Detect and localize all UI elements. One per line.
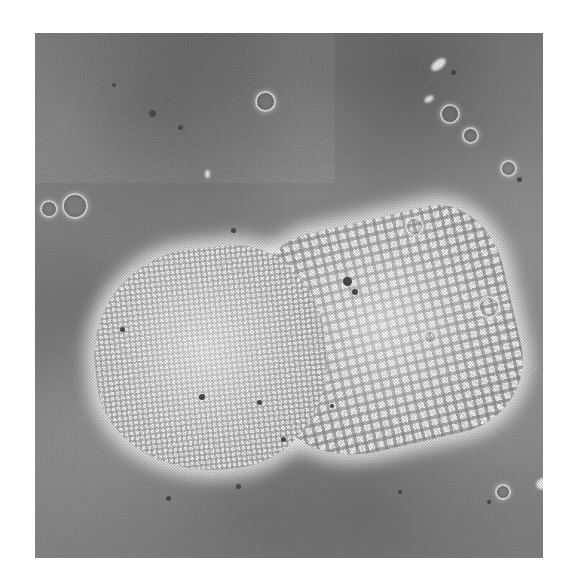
debris-speck bbox=[257, 400, 262, 405]
debris-ring-icon bbox=[495, 484, 511, 500]
debris-fleck bbox=[205, 170, 210, 178]
debris-ring-icon bbox=[423, 330, 437, 344]
debris-speck bbox=[398, 490, 402, 494]
micrograph-plate bbox=[35, 33, 543, 558]
debris-speck bbox=[487, 500, 491, 504]
debris-speck bbox=[166, 496, 171, 501]
debris-speck bbox=[120, 327, 125, 332]
debris-ring-icon bbox=[440, 104, 460, 124]
micrograph-page: diatom frustule bbox=[0, 0, 569, 585]
debris-speck bbox=[112, 83, 116, 87]
debris-ring-icon bbox=[500, 160, 517, 177]
debris-speck bbox=[330, 404, 334, 408]
debris-speck bbox=[281, 437, 286, 442]
debris-speck bbox=[199, 394, 205, 400]
debris-ring-icon bbox=[40, 200, 58, 218]
debris-speck bbox=[517, 177, 522, 182]
debris-speck bbox=[236, 484, 241, 489]
debris-speck bbox=[149, 110, 156, 117]
debris-ring-icon bbox=[405, 217, 424, 236]
debris-ring-icon bbox=[62, 193, 88, 219]
debris-ring-icon bbox=[255, 91, 276, 112]
debris-speck bbox=[231, 228, 236, 233]
debris-ring-icon bbox=[462, 127, 479, 144]
diatom-specimen bbox=[95, 218, 463, 503]
debris-speck bbox=[451, 70, 456, 75]
debris-speck bbox=[352, 289, 358, 295]
debris-ring-icon bbox=[478, 296, 500, 318]
debris-speck bbox=[343, 277, 352, 286]
debris-speck bbox=[178, 125, 183, 130]
